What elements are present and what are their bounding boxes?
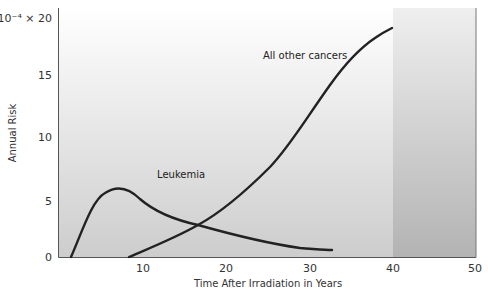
shaded-band-40-50 [393,8,476,257]
y-tick-0: 0 [45,251,52,264]
y-tick-10: 10 [38,131,52,144]
leukemia-annotation: Leukemia [157,169,205,180]
x-tick-20: 20 [219,262,233,275]
y-tick-5: 5 [45,195,52,208]
x-tick-40: 40 [386,262,400,275]
x-tick-50: 50 [468,262,482,275]
x-tick-30: 30 [303,262,317,275]
y-tick-15: 15 [38,69,52,82]
x-axis-label: Time After Irradiation in Years [193,278,342,289]
chart: 10⁻⁴ × 20 15 10 5 0 10 20 30 40 50 Time … [0,0,488,292]
y-axis-label: Annual Risk [7,103,18,162]
x-tick-10: 10 [136,262,150,275]
y-tick-20: 10⁻⁴ × 20 [0,12,52,25]
all-other-cancers-annotation: All other cancers [263,50,347,61]
plot-area [59,8,393,257]
